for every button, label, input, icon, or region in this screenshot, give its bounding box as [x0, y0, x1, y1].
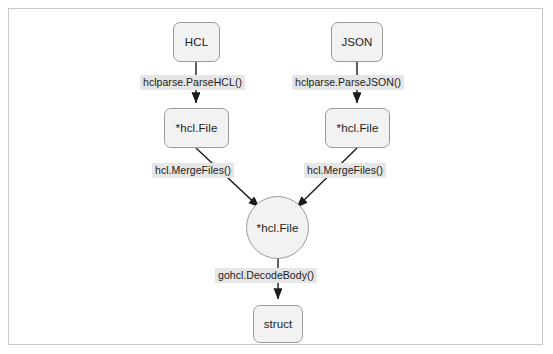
node-hcl-source[interactable]: HCL: [173, 22, 220, 62]
edge-label-merge-files-left-text: hcl.MergeFiles(): [155, 164, 231, 176]
edge-label-decode-body: gohcl.DecodeBody(): [215, 268, 317, 283]
edge-label-parse-json-text: hclparse.ParseJSON(): [295, 76, 401, 88]
node-hcl-source-label: HCL: [185, 36, 208, 48]
edge-label-parse-hcl: hclparse.ParseHCL(): [140, 75, 245, 90]
node-hcl-file-left[interactable]: *hcl.File: [164, 108, 229, 148]
node-hcl-file-merged-label: *hcl.File: [257, 222, 299, 234]
diagram-canvas: HCL JSON *hcl.File *hcl.File *hcl.File s…: [9, 9, 544, 346]
node-json-source-label: JSON: [341, 36, 372, 48]
edge-label-decode-body-text: gohcl.DecodeBody(): [218, 269, 314, 281]
node-hcl-file-merged[interactable]: *hcl.File: [246, 196, 309, 259]
node-hcl-file-right-label: *hcl.File: [337, 122, 379, 134]
node-struct-output[interactable]: struct: [253, 305, 303, 343]
edge-label-merge-files-right-text: hcl.MergeFiles(): [307, 164, 383, 176]
node-json-source[interactable]: JSON: [331, 22, 383, 62]
clipped-caption-strip: [0, 0, 553, 7]
node-struct-output-label: struct: [264, 318, 293, 330]
diagram-edges: [9, 9, 544, 346]
edge-label-merge-files-left: hcl.MergeFiles(): [152, 163, 234, 178]
edge-label-parse-hcl-text: hclparse.ParseHCL(): [143, 76, 242, 88]
node-hcl-file-right[interactable]: *hcl.File: [325, 108, 390, 148]
figure-frame: HCL JSON *hcl.File *hcl.File *hcl.File s…: [8, 8, 543, 345]
edge-label-merge-files-right: hcl.MergeFiles(): [304, 163, 386, 178]
node-hcl-file-left-label: *hcl.File: [176, 122, 218, 134]
edge-label-parse-json: hclparse.ParseJSON(): [292, 75, 404, 90]
